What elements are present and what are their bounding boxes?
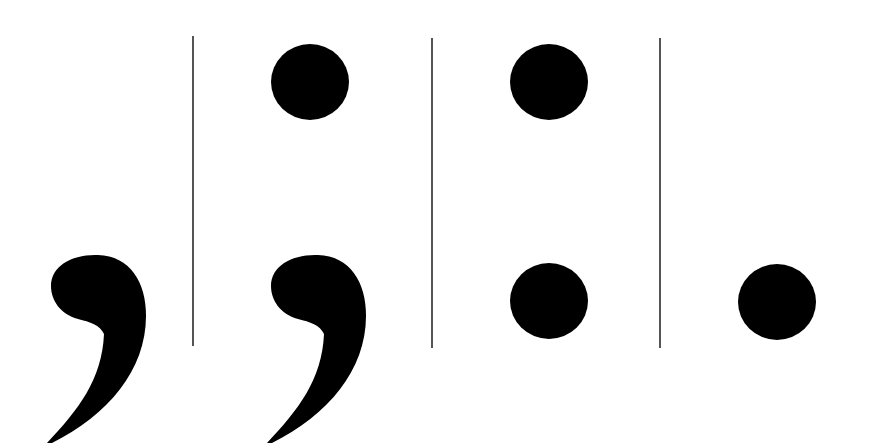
punctuation-figure	[0, 0, 869, 443]
separator-line	[431, 38, 433, 348]
semicolon-icon	[267, 44, 366, 443]
period-icon	[738, 264, 816, 340]
colon-icon	[510, 44, 588, 339]
punctuation-illustration	[0, 0, 869, 443]
separator-line	[659, 38, 661, 348]
comma-icon	[47, 255, 146, 443]
separator-line	[192, 36, 194, 346]
